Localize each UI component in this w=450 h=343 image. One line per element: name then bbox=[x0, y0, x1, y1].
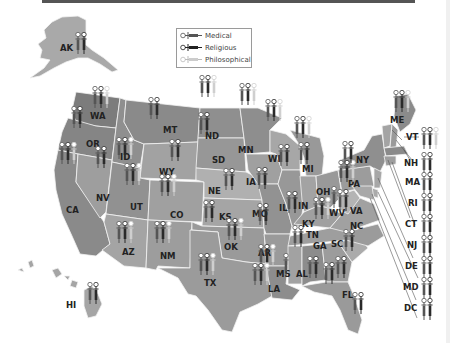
syringe-cluster-ky bbox=[285, 191, 299, 213]
syringe-cluster-hi bbox=[86, 282, 100, 304]
syringe-icon-medical bbox=[394, 90, 399, 112]
state-label-ok: OK bbox=[224, 243, 238, 252]
syringe-cluster-va bbox=[336, 189, 350, 211]
syringe-icon-religious bbox=[344, 189, 349, 211]
syringe-icon-medical bbox=[60, 142, 65, 164]
syringe-icon-religious bbox=[293, 191, 298, 213]
syringe-icon-medical bbox=[284, 253, 289, 275]
syringe-icon-philosophical bbox=[129, 137, 134, 159]
syringe-cluster-vt bbox=[420, 127, 440, 149]
syringe-cluster-il bbox=[277, 144, 291, 166]
syringe-icon-philosophical bbox=[265, 263, 270, 285]
syringe-icon-philosophical bbox=[167, 221, 172, 243]
syringe-icon-religious bbox=[314, 256, 319, 278]
state-label-de: DE bbox=[405, 262, 418, 271]
syringe-cluster-wi bbox=[264, 99, 284, 121]
state-label-va: VA bbox=[350, 207, 363, 216]
syringe-icon-medical bbox=[155, 221, 160, 243]
syringe-cluster-co bbox=[158, 174, 178, 196]
syringe-cluster-me bbox=[392, 90, 412, 112]
legend-label-medical: Medical bbox=[205, 32, 232, 40]
syringe-icon-medical bbox=[266, 99, 271, 121]
syringe-cluster-ct bbox=[420, 214, 434, 236]
state-label-oh: OH bbox=[316, 188, 330, 197]
state-label-mi: MI bbox=[302, 165, 314, 174]
syringe-icon-religious bbox=[166, 174, 171, 196]
syringe-icon-medical bbox=[227, 218, 232, 240]
syringe-cluster-az bbox=[115, 221, 135, 243]
syringe-icon-medical bbox=[204, 200, 209, 222]
syringe-icon-philosophical bbox=[211, 253, 216, 275]
syringe-icon-religious bbox=[230, 168, 235, 190]
syringe-icon-religious bbox=[233, 218, 238, 240]
syringe-icon-medical bbox=[422, 172, 427, 194]
syringe-cluster-dc bbox=[420, 298, 434, 320]
syringe-cluster-ia bbox=[255, 167, 269, 189]
syringe-cluster-nm bbox=[153, 221, 173, 243]
syringe-icon-religious bbox=[428, 193, 433, 215]
state-label-co: CO bbox=[170, 211, 183, 220]
syringe-icon-religious bbox=[123, 221, 128, 243]
syringe-icon-religious bbox=[342, 256, 347, 278]
state-label-ct: CT bbox=[405, 220, 417, 229]
syringe-cluster-ak bbox=[74, 32, 88, 54]
syringe-icon-religious bbox=[301, 116, 306, 138]
state-label-wa: WA bbox=[90, 112, 106, 121]
syringe-icon-religious bbox=[161, 221, 166, 243]
state-label-nv: NV bbox=[96, 194, 110, 203]
syringe-cluster-mo bbox=[256, 203, 270, 225]
syringe-icon-medical bbox=[314, 197, 319, 219]
syringe-icon-religious bbox=[176, 139, 181, 161]
syringe-cluster-wy bbox=[168, 139, 182, 161]
syringe-cluster-ne bbox=[222, 168, 236, 190]
syringe-icon-religious bbox=[102, 146, 107, 168]
syringe-icon-medical bbox=[293, 225, 298, 247]
legend-label-religious: Religious bbox=[205, 44, 237, 52]
syringe-icon-medical bbox=[422, 193, 427, 215]
state-label-mt: MT bbox=[163, 126, 177, 135]
syringe-icon-philosophical bbox=[105, 86, 110, 108]
syringe-icon-religious bbox=[428, 214, 433, 236]
syringe-icon-medical bbox=[257, 167, 262, 189]
state-label-ut: UT bbox=[130, 203, 143, 212]
syringe-cluster-ri bbox=[420, 193, 434, 215]
syringe-cluster-la bbox=[251, 263, 271, 285]
syringe-icon-religious bbox=[82, 32, 87, 54]
syringe-icon-medical bbox=[422, 277, 427, 299]
state-label-nh: NH bbox=[404, 159, 418, 168]
syringe-cluster-pa bbox=[337, 160, 357, 182]
syringe-icon-medical bbox=[93, 86, 98, 108]
syringe-icon-medical bbox=[170, 139, 175, 161]
legend-label-philosophical: Philosophical bbox=[205, 56, 251, 64]
state-label-az: AZ bbox=[122, 248, 135, 257]
syringe-icon-medical bbox=[422, 235, 427, 257]
syringe-cluster-sd bbox=[197, 112, 211, 134]
state-label-md: MD bbox=[403, 283, 419, 292]
syringe-icon-medical bbox=[336, 256, 341, 278]
state-shape-mt bbox=[124, 100, 200, 144]
state-label-nm: NM bbox=[160, 252, 176, 261]
syringe-icon-religious bbox=[205, 253, 210, 275]
syringe-icon-medical bbox=[253, 263, 258, 285]
syringe-icon-religious bbox=[305, 142, 310, 164]
state-label-tn: TN bbox=[306, 231, 319, 240]
syringe-icon-medical bbox=[299, 142, 304, 164]
syringe-icon-philosophical bbox=[129, 221, 134, 243]
syringe-icon-medical bbox=[240, 83, 245, 105]
syringe-cluster-nc bbox=[342, 229, 356, 251]
syringe-icon-religious bbox=[205, 112, 210, 134]
legend-item-medical: Medical bbox=[180, 30, 232, 41]
syringe-icon-medical bbox=[422, 256, 427, 278]
legend: Medical Religious Philosophical bbox=[176, 28, 252, 68]
syringe-cluster-fl bbox=[351, 292, 365, 314]
syringe-cluster-oh bbox=[312, 197, 332, 219]
syringe-icon-religious bbox=[123, 137, 128, 159]
syringe-cluster-ks bbox=[202, 200, 216, 222]
state-label-ma: MA bbox=[405, 178, 420, 187]
syringe-icon-medical bbox=[96, 146, 101, 168]
syringe-icon-philosophical bbox=[172, 174, 177, 196]
syringe-icon-medical bbox=[117, 221, 122, 243]
state-label-tx: TX bbox=[204, 279, 216, 288]
syringe-icon-religious bbox=[272, 99, 277, 121]
syringe-icon-religious bbox=[285, 144, 290, 166]
